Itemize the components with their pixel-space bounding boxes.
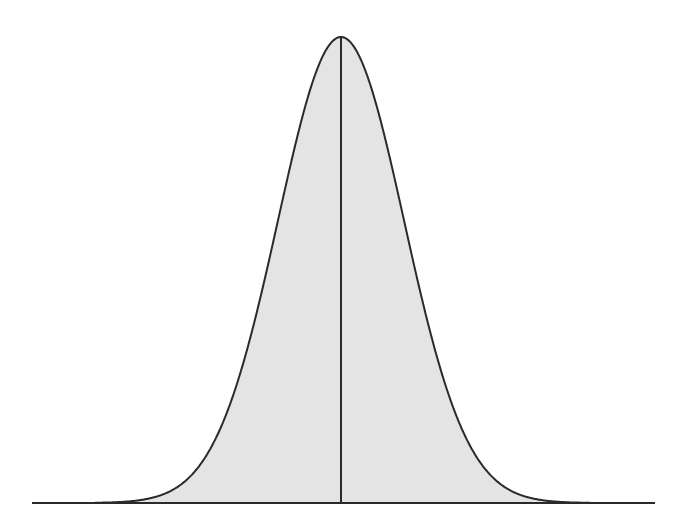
curve-area-fill <box>95 37 590 503</box>
bell-curve-diagram <box>0 0 687 532</box>
